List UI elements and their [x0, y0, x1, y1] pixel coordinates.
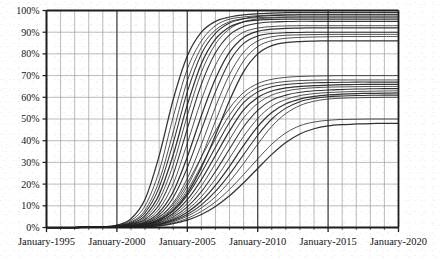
y-axis-tick-label: 80% [21, 48, 39, 59]
y-axis-tick-label: 60% [21, 92, 39, 103]
y-axis-tick-label: 100% [16, 5, 39, 16]
y-axis-tick-label: 90% [21, 27, 39, 38]
x-axis-tick-label: January-2000 [88, 236, 145, 247]
x-axis-tick-label: January-2020 [370, 236, 427, 247]
x-axis-tick-label: January-2010 [229, 236, 286, 247]
y-axis-tick-label: 50% [21, 113, 39, 124]
y-axis-tick-label: 10% [21, 200, 39, 211]
x-axis-tick-label: January-1995 [18, 236, 75, 247]
y-axis-tick-label: 0% [26, 222, 39, 233]
y-axis-tick-label: 40% [21, 135, 39, 146]
x-axis-tick-label: January-2015 [300, 236, 357, 247]
chart-container: 0%10%20%30%40%50%60%70%80%90%100% Januar… [0, 0, 441, 259]
y-axis-tick-label: 20% [21, 179, 39, 190]
diffusion-curves-chart: 0%10%20%30%40%50%60%70%80%90%100% Januar… [0, 0, 441, 259]
x-axis-tick-label: January-2005 [159, 236, 216, 247]
y-axis-tick-label: 30% [21, 157, 39, 168]
y-axis-tick-label: 70% [21, 70, 39, 81]
